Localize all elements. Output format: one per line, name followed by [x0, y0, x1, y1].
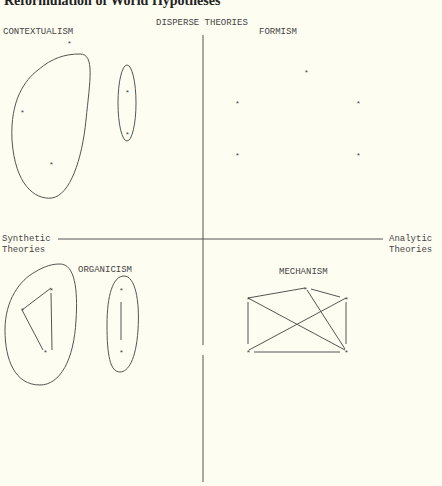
quadrant-label-organicism: ORGANICISM [78, 265, 132, 275]
axis-label-right-line2: Theories [389, 245, 432, 255]
point: * [303, 285, 308, 294]
point: * [246, 348, 251, 357]
point: * [235, 151, 240, 160]
point: * [344, 348, 349, 357]
point: * [356, 151, 361, 160]
axis-label-left-line2: Theories [2, 245, 45, 255]
point: * [119, 286, 124, 295]
point: * [20, 306, 25, 315]
point: * [49, 286, 54, 295]
point: * [119, 348, 124, 357]
point: * [125, 130, 130, 139]
point: * [246, 295, 251, 304]
point: * [67, 39, 72, 48]
point: * [20, 108, 25, 117]
contextualism-cluster-large [12, 54, 90, 198]
point: * [344, 295, 349, 304]
axis-label-left-line1: Synthetic [2, 234, 51, 244]
point: * [125, 88, 130, 97]
quadrant-label-mechanism: MECHANISM [279, 267, 328, 277]
point: * [304, 68, 309, 77]
point: * [356, 99, 361, 108]
point: * [49, 160, 54, 169]
axis-label-top: DISPERSE THEORIES [156, 18, 248, 28]
quadrant-label-contextualism: CONTEXTUALISM [3, 27, 73, 37]
quadrant-label-formism: FORMISM [259, 27, 297, 37]
quadrant-diagram: * * * * * * * * * * * * * * * * * * * * [0, 0, 442, 486]
organicism-cluster-large [5, 264, 77, 385]
point: * [43, 348, 48, 357]
axis-label-right-line1: Analytic [389, 234, 432, 244]
point: * [235, 99, 240, 108]
